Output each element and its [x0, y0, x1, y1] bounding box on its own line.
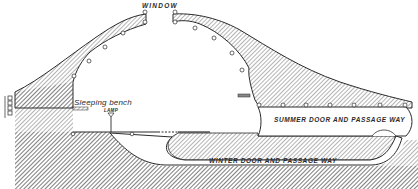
winter-passage-label: WINTER DOOR AND PASSAGE WAY	[209, 158, 337, 165]
sleeping-bench-label: Sleeping bench	[74, 99, 132, 107]
right-dome-wall	[173, 14, 412, 108]
sleeping-bench	[73, 107, 88, 110]
wall-shelf	[238, 94, 250, 97]
lamp-icon	[108, 113, 114, 132]
summer-passage-label: SUMMER DOOR AND PASSAGE WAY	[274, 117, 405, 124]
scale-marks	[5, 96, 12, 118]
lamp-label: LAMP	[104, 109, 118, 114]
window-label: WINDOW	[142, 3, 178, 10]
